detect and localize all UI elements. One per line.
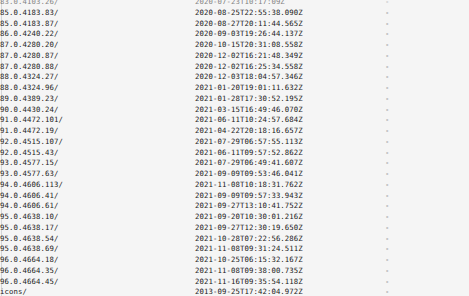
- entry-name-cell[interactable]: 93.0.4577.15/: [0, 158, 195, 169]
- entry-name-link[interactable]: 88.0.4324.27/: [0, 72, 58, 83]
- entry-name-link[interactable]: 94.0.4606.61/: [0, 201, 58, 212]
- entry-name-link[interactable]: 94.0.4606.41/: [0, 191, 58, 202]
- entry-name-cell[interactable]: 91.0.4472.101/: [0, 115, 195, 126]
- entry-size-cell: -: [385, 201, 469, 212]
- entry-size-cell: -: [385, 51, 469, 62]
- entry-name-cell[interactable]: icons/: [0, 287, 195, 296]
- table-row[interactable]: 91.0.4472.19/2021-04-22T20:18:16.657Z-: [0, 126, 469, 137]
- entry-modified-cell: 2021-11-08T09:38:00.735Z: [195, 266, 385, 277]
- entry-name-link[interactable]: 93.0.4577.63/: [0, 169, 58, 180]
- entry-name-link[interactable]: icons/: [0, 287, 27, 296]
- table-row[interactable]: 91.0.4472.101/2021-06-11T10:24:57.684Z-: [0, 115, 469, 126]
- table-row[interactable]: 96.0.4664.45/2021-11-16T09:35:54.118Z-: [0, 277, 469, 288]
- table-row[interactable]: 94.0.4606.41/2021-09-09T09:57:33.943Z-: [0, 191, 469, 202]
- entry-size-cell: -: [385, 72, 469, 83]
- table-row[interactable]: 87.0.4280.87/2020-12-02T16:21:48.349Z-: [0, 51, 469, 62]
- entry-size-cell: -: [385, 148, 469, 159]
- entry-name-cell[interactable]: 83.0.4103.26/: [0, 0, 195, 8]
- entry-size-cell: -: [385, 234, 469, 245]
- entry-name-link[interactable]: 87.0.4280.20/: [0, 40, 58, 51]
- entry-name-link[interactable]: 96.0.4664.35/: [0, 266, 58, 277]
- entry-name-link[interactable]: 91.0.4472.19/: [0, 126, 58, 137]
- table-row[interactable]: 88.0.4324.96/2021-01-20T19:01:11.632Z-: [0, 83, 469, 94]
- entry-name-cell[interactable]: 91.0.4472.19/: [0, 126, 195, 137]
- entry-name-cell[interactable]: 85.0.4183.87/: [0, 19, 195, 30]
- table-row[interactable]: 89.0.4389.23/2021-01-28T17:30:52.195Z-: [0, 94, 469, 105]
- table-row[interactable]: 87.0.4280.88/2020-12-02T16:25:34.558Z-: [0, 62, 469, 73]
- entry-name-cell[interactable]: 92.0.4515.107/: [0, 137, 195, 148]
- entry-name-link[interactable]: 92.0.4515.43/: [0, 148, 58, 159]
- entry-name-link[interactable]: 92.0.4515.107/: [0, 137, 63, 148]
- entry-name-cell[interactable]: 87.0.4280.88/: [0, 62, 195, 73]
- entry-size-cell: -: [385, 40, 469, 51]
- entry-name-link[interactable]: 95.0.4638.17/: [0, 223, 58, 234]
- table-row[interactable]: 95.0.4638.69/2021-11-08T09:31:24.511Z-: [0, 244, 469, 255]
- entry-name-cell[interactable]: 95.0.4638.54/: [0, 234, 195, 245]
- entry-name-link[interactable]: 93.0.4577.15/: [0, 158, 58, 169]
- table-row[interactable]: 93.0.4577.63/2021-09-09T09:53:46.041Z-: [0, 169, 469, 180]
- table-row[interactable]: 94.0.4606.61/2021-09-27T13:10:41.752Z-: [0, 201, 469, 212]
- entry-name-cell[interactable]: 94.0.4606.113/: [0, 180, 195, 191]
- entry-modified-cell: 2021-07-29T06:57:55.113Z: [195, 137, 385, 148]
- entry-name-link[interactable]: 85.0.4183.87/: [0, 19, 58, 30]
- entry-modified-cell: 2021-06-11T09:57:52.862Z: [195, 148, 385, 159]
- table-row[interactable]: 85.0.4183.87/2020-08-27T20:11:44.565Z-: [0, 19, 469, 30]
- entry-name-cell[interactable]: 94.0.4606.61/: [0, 201, 195, 212]
- table-row[interactable]: 86.0.4240.22/2020-09-03T19:26:44.137Z-: [0, 29, 469, 40]
- entry-name-cell[interactable]: 94.0.4606.41/: [0, 191, 195, 202]
- entry-name-link[interactable]: 95.0.4638.69/: [0, 244, 58, 255]
- entry-name-cell[interactable]: 85.0.4183.83/: [0, 8, 195, 19]
- table-row[interactable]: 96.0.4664.35/2021-11-08T09:38:00.735Z-: [0, 266, 469, 277]
- entry-name-cell[interactable]: 96.0.4664.35/: [0, 266, 195, 277]
- entry-name-link[interactable]: 96.0.4664.18/: [0, 255, 58, 266]
- table-row[interactable]: 93.0.4577.15/2021-07-29T06:49:41.607Z-: [0, 158, 469, 169]
- entry-name-cell[interactable]: 96.0.4664.45/: [0, 277, 195, 288]
- directory-listing-table: 83.0.4103.26/2020-07-23T10:17:09Z-85.0.4…: [0, 0, 469, 296]
- entry-name-cell[interactable]: 88.0.4324.27/: [0, 72, 195, 83]
- table-row[interactable]: 92.0.4515.107/2021-07-29T06:57:55.113Z-: [0, 137, 469, 148]
- table-row[interactable]: 95.0.4638.17/2021-09-27T12:30:19.650Z-: [0, 223, 469, 234]
- entry-name-cell[interactable]: 90.0.4430.24/: [0, 105, 195, 116]
- entry-name-link[interactable]: 83.0.4103.26/: [0, 0, 58, 8]
- entry-name-cell[interactable]: 86.0.4240.22/: [0, 29, 195, 40]
- entry-name-cell[interactable]: 87.0.4280.20/: [0, 40, 195, 51]
- entry-size-cell: -: [385, 83, 469, 94]
- table-row[interactable]: 92.0.4515.43/2021-06-11T09:57:52.862Z-: [0, 148, 469, 159]
- table-row[interactable]: 90.0.4430.24/2021-03-15T16:49:46.070Z-: [0, 105, 469, 116]
- entry-size-cell: -: [385, 137, 469, 148]
- table-row[interactable]: 95.0.4638.10/2021-09-20T10:30:01.216Z-: [0, 212, 469, 223]
- entry-name-link[interactable]: 96.0.4664.45/: [0, 277, 58, 288]
- table-row[interactable]: 83.0.4103.26/2020-07-23T10:17:09Z-: [0, 0, 469, 8]
- table-row[interactable]: icons/2013-09-25T17:42:04.972Z-: [0, 287, 469, 296]
- table-row[interactable]: 95.0.4638.54/2021-10-28T07:22:56.286Z-: [0, 234, 469, 245]
- entry-name-cell[interactable]: 95.0.4638.10/: [0, 212, 195, 223]
- table-row[interactable]: 88.0.4324.27/2020-12-03T18:04:57.346Z-: [0, 72, 469, 83]
- entry-name-link[interactable]: 91.0.4472.101/: [0, 115, 63, 126]
- entry-name-link[interactable]: 88.0.4324.96/: [0, 83, 58, 94]
- table-row[interactable]: 96.0.4664.18/2021-10-25T06:15:32.167Z-: [0, 255, 469, 266]
- entry-name-link[interactable]: 87.0.4280.88/: [0, 62, 58, 73]
- entry-name-cell[interactable]: 87.0.4280.87/: [0, 51, 195, 62]
- table-row[interactable]: 85.0.4183.83/2020-08-25T22:55:38.090Z-: [0, 8, 469, 19]
- entry-name-link[interactable]: 94.0.4606.113/: [0, 180, 63, 191]
- entry-modified-cell: 2021-01-28T17:30:52.195Z: [195, 94, 385, 105]
- table-row[interactable]: 94.0.4606.113/2021-11-08T10:18:31.762Z-: [0, 180, 469, 191]
- entry-name-cell[interactable]: 95.0.4638.69/: [0, 244, 195, 255]
- entry-name-link[interactable]: 90.0.4430.24/: [0, 105, 58, 116]
- entry-modified-cell: 2021-01-20T19:01:11.632Z: [195, 83, 385, 94]
- entry-name-cell[interactable]: 93.0.4577.63/: [0, 169, 195, 180]
- entry-modified-cell: 2021-09-09T09:57:33.943Z: [195, 191, 385, 202]
- entry-name-cell[interactable]: 92.0.4515.43/: [0, 148, 195, 159]
- entry-name-cell[interactable]: 95.0.4638.17/: [0, 223, 195, 234]
- entry-name-link[interactable]: 89.0.4389.23/: [0, 94, 58, 105]
- entry-name-link[interactable]: 86.0.4240.22/: [0, 29, 58, 40]
- entry-name-link[interactable]: 95.0.4638.10/: [0, 212, 58, 223]
- entry-name-cell[interactable]: 88.0.4324.96/: [0, 83, 195, 94]
- table-row[interactable]: 87.0.4280.20/2020-10-15T20:31:08.558Z-: [0, 40, 469, 51]
- directory-listing-viewport[interactable]: 83.0.4103.26/2020-07-23T10:17:09Z-85.0.4…: [0, 0, 469, 296]
- entry-name-cell[interactable]: 96.0.4664.18/: [0, 255, 195, 266]
- entry-name-link[interactable]: 95.0.4638.54/: [0, 234, 58, 245]
- entry-name-link[interactable]: 85.0.4183.83/: [0, 8, 58, 19]
- entry-name-link[interactable]: 87.0.4280.87/: [0, 51, 58, 62]
- entry-name-cell[interactable]: 89.0.4389.23/: [0, 94, 195, 105]
